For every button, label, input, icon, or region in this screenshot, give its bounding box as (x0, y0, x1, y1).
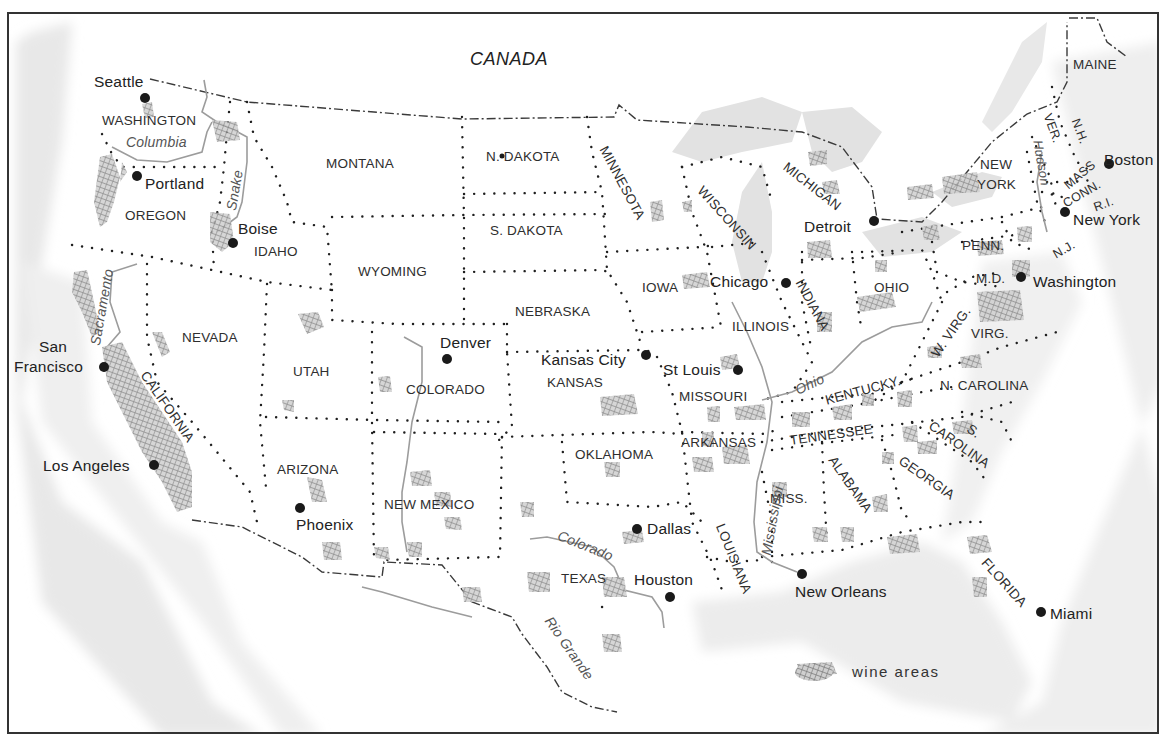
city-label-portland: Portland (145, 176, 204, 192)
state-label-s-dakota: S. DAKOTA (490, 224, 563, 238)
city-label-phoenix: Phoenix (296, 517, 353, 533)
state-label-illinois: ILLINOIS (732, 320, 789, 334)
legend: wine areas (794, 661, 974, 689)
city-label-kansas-city: Kansas City (541, 352, 626, 368)
state-label-iowa: IOWA (642, 281, 678, 295)
city-label-miami: Miami (1050, 606, 1092, 622)
state-label-nevada: NEVADA (182, 331, 238, 345)
wine-area-legend-icon (794, 661, 834, 683)
country-label-canada: CANADA (470, 50, 548, 68)
state-label-oklahoma: OKLAHOMA (575, 448, 653, 462)
state-label-nebraska: NEBRASKA (515, 305, 590, 319)
state-label-montana: MONTANA (326, 157, 394, 171)
state-label-maine: MAINE (1073, 58, 1117, 72)
state-label-colorado: COLORADO (406, 383, 485, 397)
state-label-utah: UTAH (293, 365, 330, 379)
state-label-maryland: M.D. (976, 272, 1005, 286)
state-label-n-carolina: N. CAROLINA (940, 379, 1028, 393)
city-label-san-francisco-line2: Francisco (14, 359, 83, 375)
city-label-new-orleans: New Orleans (795, 584, 887, 600)
city-label-boise: Boise (238, 221, 278, 237)
state-label-idaho: IDAHO (254, 245, 298, 259)
city-label-denver: Denver (440, 335, 491, 351)
city-label-st-louis: St Louis (663, 362, 721, 378)
city-label-dallas: Dallas (647, 521, 691, 537)
state-label-new-york-line1: NEW (980, 158, 1012, 172)
state-label-arkansas: ARKANSAS (681, 436, 756, 450)
city-label-new-york-city: New York (1073, 212, 1140, 228)
state-label-washington: WASHINGTON (102, 114, 196, 128)
state-label-new-york-line2: YORK (977, 178, 1016, 192)
city-label-san-francisco-line1: San (39, 339, 67, 355)
city-label-los-angeles: Los Angeles (43, 458, 130, 474)
state-label-n-dakota: N. DAKOTA (486, 150, 560, 164)
state-label-oregon: OREGON (125, 209, 186, 223)
river-label-columbia: Columbia (126, 135, 187, 149)
city-label-boston: Boston (1104, 152, 1153, 168)
state-label-ohio: OHIO (874, 281, 909, 295)
state-label-virginia: VIRG. (971, 327, 1009, 341)
city-label-seattle: Seattle (94, 74, 144, 90)
city-label-houston: Houston (634, 572, 693, 588)
city-label-chicago: Chicago (710, 274, 768, 290)
state-label-new-mexico: NEW MEXICO (384, 498, 475, 512)
map-frame: CANADA WASHINGTON OREGON IDAHO MONTANA N… (7, 12, 1159, 734)
state-label-wyoming: WYOMING (358, 265, 427, 279)
state-label-texas: TEXAS (561, 572, 606, 586)
state-label-arizona: ARIZONA (277, 463, 338, 477)
legend-label: wine areas (852, 664, 940, 679)
city-label-washington-dc: Washington (1033, 274, 1116, 290)
city-label-detroit: Detroit (804, 219, 851, 235)
state-label-kansas: KANSAS (547, 376, 603, 390)
state-label-missouri: MISSOURI (679, 390, 747, 404)
state-label-pennsylvania: PENN. (962, 239, 1004, 253)
